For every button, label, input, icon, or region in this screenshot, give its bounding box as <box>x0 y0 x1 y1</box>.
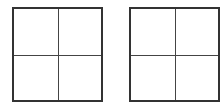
grid-horizontal-divider <box>131 55 218 56</box>
grid-horizontal-divider <box>14 55 101 56</box>
grid-square-right <box>129 7 220 102</box>
grid-square-left <box>12 7 103 102</box>
